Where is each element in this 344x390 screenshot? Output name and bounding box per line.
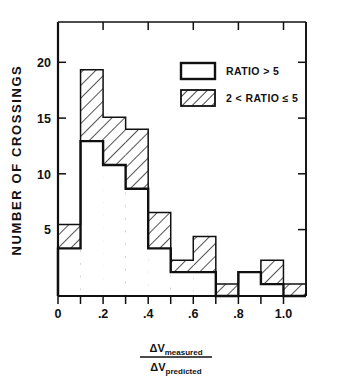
figure-background <box>0 0 344 390</box>
histogram-svg: 20 15 10 5 0 .2 .4 <box>0 0 344 390</box>
histogram-bin-hatched <box>283 284 306 296</box>
x-tick-label: .4 <box>143 307 153 321</box>
x-tick-label: 0 <box>55 307 62 321</box>
legend-label-ratio-2-to-5: 2 < RATIO ≤ 5 <box>226 92 298 104</box>
hatched-rectangle-swatch <box>181 90 215 106</box>
denominator-symbol: ΔV <box>150 361 166 373</box>
y-tick-label: 10 <box>37 168 51 182</box>
x-tick-label: .2 <box>98 307 108 321</box>
x-tick-label: .6 <box>188 307 198 321</box>
figure-histogram: 20 15 10 5 0 .2 .4 <box>0 0 344 390</box>
histogram-bin-solid <box>238 272 261 296</box>
y-axis-title: NUMBER OF CROSSINGS <box>9 65 24 256</box>
y-tick-label: 15 <box>37 112 51 126</box>
numerator-subscript: measured <box>165 348 203 357</box>
histogram-bin-solid <box>126 189 149 296</box>
histogram-bin-solid <box>193 272 216 296</box>
histogram-bin-solid <box>81 141 104 296</box>
histogram-bin-hatched <box>216 284 239 296</box>
histogram-bin-solid <box>261 284 284 296</box>
histogram-bin-solid <box>58 248 81 296</box>
numerator-symbol: ΔV <box>149 342 165 354</box>
x-tick-label: 1.0 <box>275 307 292 321</box>
y-tick-label: 5 <box>44 223 51 237</box>
histogram-bin-solid <box>171 272 194 296</box>
denominator-subscript: predicted <box>166 367 202 376</box>
y-axis-title-text: NUMBER OF CROSSINGS <box>9 65 24 256</box>
histogram-bin-solid <box>103 165 126 296</box>
histogram-bin-solid <box>148 248 171 296</box>
open-rectangle-swatch <box>181 63 215 79</box>
y-tick-label: 20 <box>37 56 51 70</box>
x-tick-label: .8 <box>233 307 243 321</box>
legend-label-ratio-gt-5: RATIO > 5 <box>226 65 279 77</box>
